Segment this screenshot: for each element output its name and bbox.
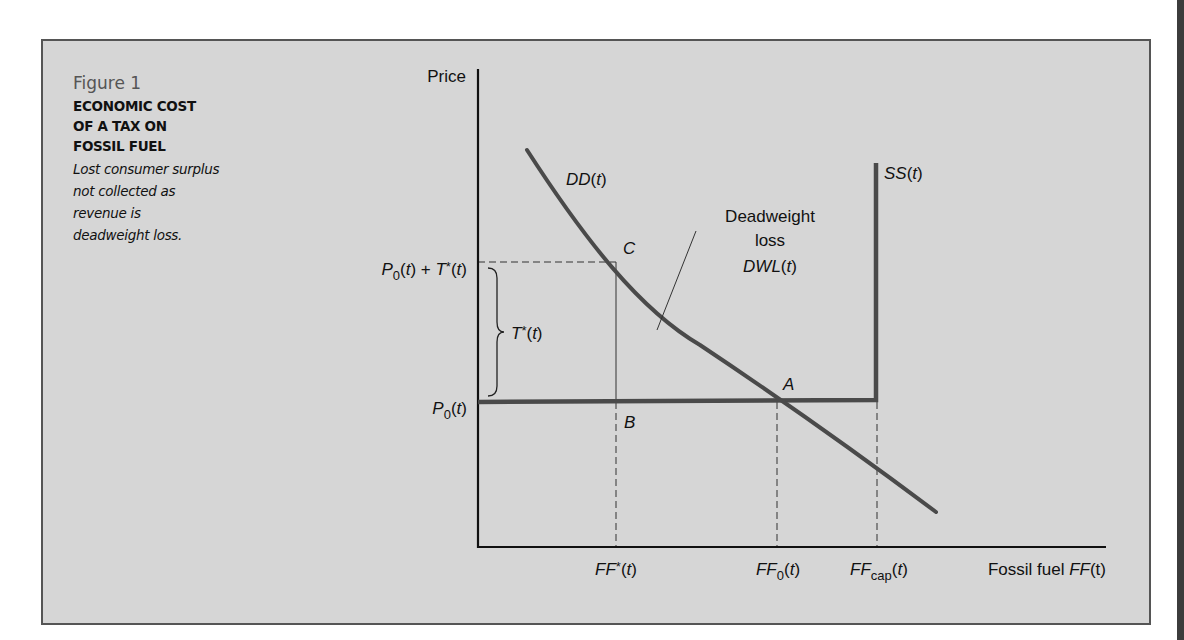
x-axis-var: FF bbox=[1069, 560, 1091, 579]
x-tick-ff-0: FF0(t) bbox=[756, 560, 800, 583]
y-tick-sub: 0 bbox=[393, 268, 400, 283]
x-axis-arg: (t) bbox=[1090, 560, 1106, 579]
x-tick-ff: FF bbox=[850, 560, 872, 579]
dwl-close: ) bbox=[791, 257, 797, 276]
x-axis-label: Fossil fuel FF(t) bbox=[988, 560, 1106, 579]
x-tick-close: ) bbox=[902, 560, 908, 579]
supply-name: SS bbox=[884, 164, 907, 183]
x-tick-ff-star: FF*(t) bbox=[595, 559, 637, 579]
x-tick-close: ) bbox=[631, 560, 637, 579]
dwl-label-line3: DWL(t) bbox=[743, 257, 797, 276]
y-tick-tax-price: P0(t) + T*(t) bbox=[381, 259, 467, 283]
page: Figure 1 ECONOMIC COST OF A TAX ON FOSSI… bbox=[0, 0, 1184, 640]
supply-curve-label: SS(t) bbox=[884, 164, 923, 183]
y-axis-label: Price bbox=[427, 67, 466, 86]
dwl-label-line2: loss bbox=[755, 231, 785, 250]
supply-close: ) bbox=[917, 164, 923, 183]
x-axis-prefix: Fossil fuel bbox=[988, 560, 1069, 579]
demand-name: DD bbox=[566, 170, 591, 189]
point-b-label: B bbox=[624, 413, 635, 432]
x-tick-sub: cap bbox=[871, 568, 892, 583]
y-tick-paren-plus: ) + bbox=[410, 260, 435, 279]
y-tick-close: ) bbox=[461, 260, 467, 279]
y-tick-base-price: P0(t) bbox=[432, 399, 467, 422]
dwl-leader-line bbox=[657, 231, 696, 330]
brace-close: ) bbox=[537, 324, 543, 343]
x-tick-close: ) bbox=[794, 560, 800, 579]
economic-diagram: Price P0(t) + T*(t) P0(t) T*(t) DD(t) SS… bbox=[0, 0, 1184, 640]
guide-lines bbox=[478, 262, 877, 547]
x-tick-ff-cap: FFcap(t) bbox=[850, 560, 908, 583]
x-tick-sub: 0 bbox=[777, 568, 784, 583]
x-tick-ff: FF bbox=[756, 560, 778, 579]
supply-curve bbox=[478, 163, 876, 402]
tax-brace-label: T*(t) bbox=[511, 323, 543, 343]
x-tick-ff: FF bbox=[595, 560, 617, 579]
tax-brace bbox=[488, 268, 504, 396]
y-tick-sub: 0 bbox=[444, 407, 451, 422]
y-tick-p: P bbox=[381, 260, 393, 279]
y-tick-p: P bbox=[432, 399, 444, 418]
demand-curve-label: DD(t) bbox=[566, 170, 607, 189]
demand-close: ) bbox=[601, 170, 607, 189]
point-c-label: C bbox=[623, 239, 636, 258]
dwl-label-line1: Deadweight bbox=[725, 207, 815, 226]
y-tick-close: ) bbox=[461, 399, 467, 418]
point-a-label: A bbox=[782, 375, 794, 394]
dwl-name: DWL bbox=[743, 257, 781, 276]
